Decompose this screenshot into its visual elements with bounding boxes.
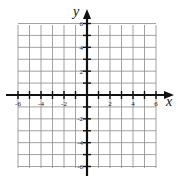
coordinate-plane: -6-4-2246642-2-4-6 x y xyxy=(0,0,178,178)
y-tick-label: 6 xyxy=(80,20,84,28)
y-tick-label: 4 xyxy=(80,44,84,52)
y-axis-arrow-icon xyxy=(83,9,91,19)
y-tick-label: 2 xyxy=(80,68,84,76)
x-tick-label: -6 xyxy=(15,100,21,108)
x-tick-label: -4 xyxy=(38,100,44,108)
x-tick-label: -2 xyxy=(61,100,67,108)
x-axis-label: x xyxy=(165,94,173,109)
x-tick-label: 6 xyxy=(154,100,158,108)
y-tick-label: -2 xyxy=(77,115,83,123)
y-tick-label: -6 xyxy=(77,163,83,171)
y-axis-label: y xyxy=(71,4,80,19)
x-tick-label: 2 xyxy=(108,100,112,108)
y-tick-label: -4 xyxy=(77,139,83,147)
x-tick-label: 4 xyxy=(131,100,135,108)
axes xyxy=(6,9,174,176)
